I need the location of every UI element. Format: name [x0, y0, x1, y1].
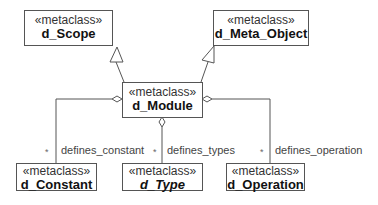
- class-box-d-scope[interactable]: «metaclass» d_Scope: [24, 10, 113, 46]
- aggregation-diamond-constant: [112, 96, 122, 102]
- aggregation-diamond-type: [159, 117, 165, 127]
- stereotype-label: «metaclass»: [123, 85, 202, 99]
- multiplicity-constant: *: [45, 147, 49, 157]
- multiplicity-type: *: [153, 147, 157, 157]
- multiplicity-operation: *: [260, 147, 264, 157]
- role-label-defines-constant: defines_constant: [61, 144, 144, 156]
- stereotype-label: «metaclass»: [227, 164, 304, 178]
- class-box-d-constant[interactable]: «metaclass» d_Constant: [16, 163, 97, 191]
- role-label-defines-types: defines_types: [167, 144, 235, 156]
- class-box-d-meta-object[interactable]: «metaclass» d_Meta_Object: [213, 10, 309, 46]
- class-box-d-type[interactable]: «metaclass» d_Type: [122, 163, 203, 191]
- class-box-d-operation[interactable]: «metaclass» d_Operation: [226, 163, 305, 191]
- stereotype-label: «metaclass»: [214, 13, 308, 27]
- aggregation-diamond-operation: [202, 96, 212, 102]
- class-box-d-module[interactable]: «metaclass» d_Module: [122, 82, 203, 118]
- class-name: d_Module: [123, 99, 202, 113]
- class-name: d_Operation: [227, 178, 304, 192]
- generalization-line-meta-object: [201, 62, 208, 82]
- role-label-defines-operation: defines_operation: [275, 144, 362, 156]
- generalization-line-scope: [116, 62, 124, 82]
- stereotype-label: «metaclass»: [123, 164, 202, 178]
- generalization-arrow-meta-object: [202, 46, 214, 63]
- class-name: d_Constant: [17, 178, 96, 192]
- class-name: d_Meta_Object: [214, 27, 308, 41]
- generalization-arrow-scope: [110, 47, 123, 62]
- stereotype-label: «metaclass»: [25, 13, 112, 27]
- class-name: d_Type: [123, 178, 202, 192]
- class-name: d_Scope: [25, 27, 112, 41]
- stereotype-label: «metaclass»: [17, 164, 96, 178]
